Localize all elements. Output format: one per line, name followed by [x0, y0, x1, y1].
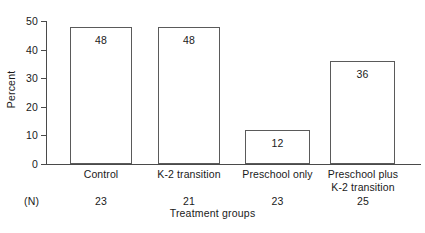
category-label-line: Preschool plus [318, 168, 408, 181]
x-axis-title: Treatment groups [0, 207, 425, 219]
y-axis-tick-label: 10 [0, 130, 38, 140]
y-axis-title: Percent [6, 55, 17, 125]
category-label-line: Preschool only [235, 168, 320, 181]
y-axis-tick-label: 0 [0, 159, 38, 169]
n-value: 23 [61, 195, 141, 207]
y-axis-tick-label: 20 [0, 102, 38, 112]
y-axis-tick-label: 40 [0, 45, 38, 55]
category-label-line: K-2 transition [318, 181, 408, 194]
bar-value-label: 48 [159, 35, 219, 46]
bar-3: 12 [245, 130, 310, 164]
bar-value-label: 12 [246, 138, 309, 149]
x-axis-category-label: Preschool plusK-2 transition [318, 168, 408, 193]
x-axis-category-label: Preschool only [235, 168, 320, 181]
bar-value-label: 36 [331, 69, 394, 80]
bar-1: 48 [70, 27, 132, 164]
category-label-line: K-2 transition [148, 168, 230, 181]
n-value: 25 [318, 195, 408, 207]
y-axis-tick-label: 50 [0, 16, 38, 26]
bar-value-label: 48 [71, 35, 131, 46]
y-axis-tick-label: 30 [0, 73, 38, 83]
x-axis-line [46, 164, 421, 165]
n-value: 21 [148, 195, 230, 207]
category-label-line: Control [61, 168, 141, 181]
n-value: 23 [235, 195, 320, 207]
bar-4: 36 [330, 61, 395, 164]
bar-2: 48 [158, 27, 220, 164]
x-axis-category-label: K-2 transition [148, 168, 230, 181]
x-axis-category-label: Control [61, 168, 141, 181]
y-axis-line [46, 21, 47, 165]
bar-chart: Percent 01020304050 48481236 ControlK-2 … [0, 0, 425, 233]
n-row-label: (N) [24, 195, 39, 207]
